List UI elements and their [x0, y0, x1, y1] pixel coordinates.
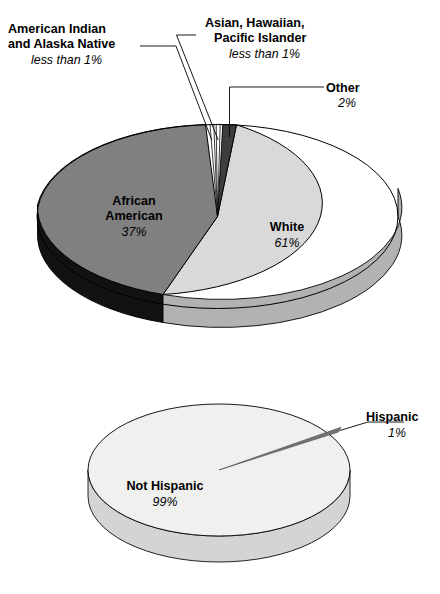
- asian-label-value: less than 1%: [229, 47, 300, 61]
- white-label-line1: White: [270, 220, 304, 234]
- other-label: Other 2%: [326, 81, 360, 110]
- not-hispanic-label-line1: Not Hispanic: [127, 479, 204, 493]
- white-label-value: 61%: [275, 236, 300, 250]
- hispanic-label-value: 1%: [388, 426, 406, 440]
- asian-leader-line: [177, 35, 219, 140]
- african-american-label-line2: American: [105, 209, 162, 223]
- other-label-value: 2%: [337, 96, 356, 110]
- asian-label-line1: Asian, Hawaiian,: [205, 16, 304, 30]
- other-label-line1: Other: [326, 81, 360, 95]
- american-indian-label-line2: and Alaska Native: [8, 37, 115, 51]
- hispanic-label: Hispanic 1%: [366, 410, 419, 440]
- asian-hawaiian-pacific-islander-label: Asian, Hawaiian, Pacific Islander less t…: [205, 16, 306, 61]
- pie-charts-figure: American Indian and Alaska Native less t…: [0, 0, 440, 594]
- race-pie-chart: American Indian and Alaska Native less t…: [8, 16, 402, 327]
- ethnicity-pie-chart: Hispanic 1% Not Hispanic 99%: [88, 404, 419, 562]
- hispanic-label-line1: Hispanic: [366, 410, 419, 424]
- not-hispanic-label-value: 99%: [153, 495, 178, 509]
- african-american-label-line1: African: [112, 194, 155, 208]
- american-indian-alaska-native-label: American Indian and Alaska Native less t…: [8, 22, 115, 67]
- african-american-label-value: 37%: [122, 225, 147, 239]
- figure-container: American Indian and Alaska Native less t…: [0, 0, 440, 594]
- american-indian-label-value: less than 1%: [31, 53, 102, 67]
- american-indian-label-line1: American Indian: [8, 22, 106, 36]
- asian-label-line2: Pacific Islander: [214, 31, 306, 45]
